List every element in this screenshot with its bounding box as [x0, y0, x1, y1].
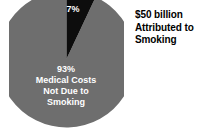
pie-slice-large-line4: Smoking	[16, 97, 116, 108]
pie-slice-large-line2: Medical Costs	[16, 75, 116, 86]
pie-slice-label-small: 7%	[58, 4, 88, 15]
pie-slice-large-line3: Not Due to	[16, 86, 116, 97]
chart-annotation: $50 billion Attributed to Smoking	[135, 9, 211, 47]
pie-slice-large-percent: 93%	[16, 64, 116, 75]
annotation-line-3: Smoking	[135, 34, 211, 47]
pie-slice-label-large: 93% Medical Costs Not Due to Smoking	[16, 64, 116, 108]
pie-slice-small-percent: 7%	[58, 4, 88, 15]
annotation-line-2: Attributed to	[135, 22, 211, 35]
pie-chart-figure: 7% 93% Medical Costs Not Due to Smoking …	[0, 0, 211, 135]
annotation-line-1: $50 billion	[135, 9, 211, 22]
